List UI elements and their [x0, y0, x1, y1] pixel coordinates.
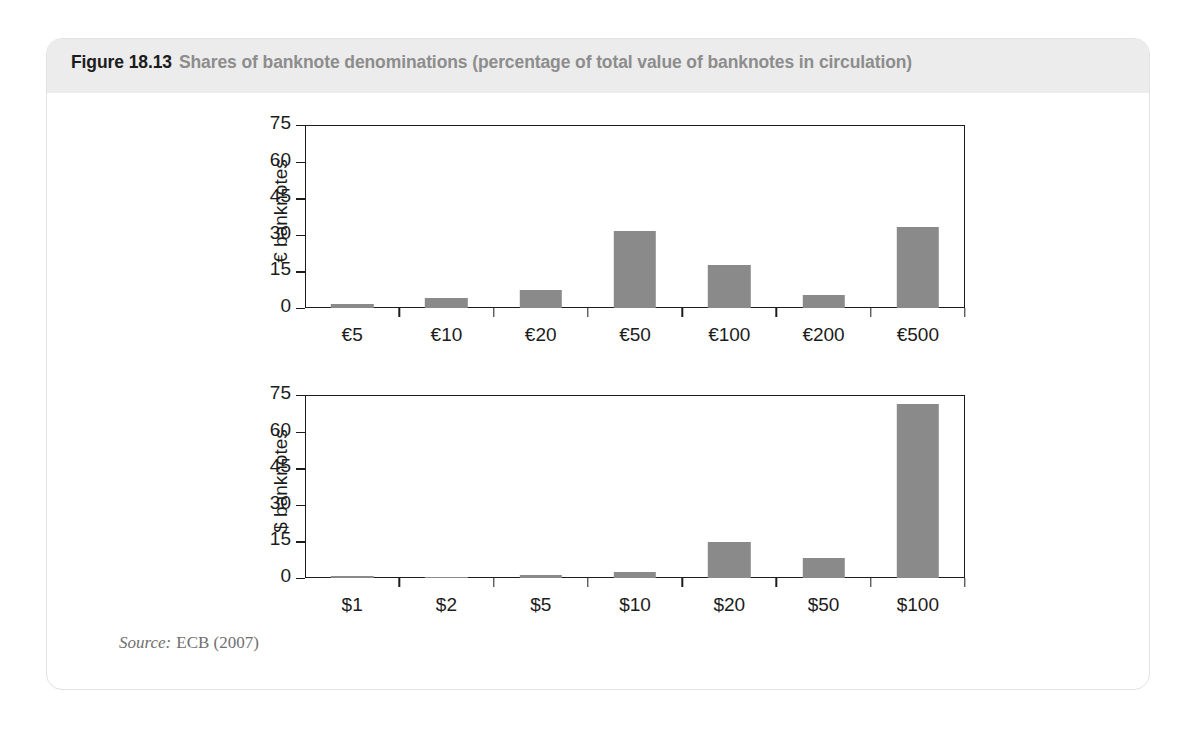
y-tick-mark — [296, 395, 305, 396]
x-tick-label: $10 — [619, 594, 651, 616]
x-tick-mark — [399, 308, 400, 317]
x-tick-mark — [870, 308, 871, 317]
bar — [331, 304, 373, 308]
x-tick-mark — [964, 578, 965, 587]
bar — [802, 558, 844, 578]
y-tick: 15 — [243, 271, 305, 272]
bar — [519, 290, 561, 308]
x-tick-mark — [681, 308, 682, 317]
x-tick-mark — [776, 578, 777, 587]
y-tick-label: 0 — [280, 565, 291, 587]
x-tick-mark — [587, 308, 588, 317]
figure-title: Shares of banknote denominations (percen… — [179, 52, 912, 72]
bar — [708, 265, 750, 308]
y-tick-mark — [296, 162, 305, 163]
y-tick-mark — [296, 468, 305, 469]
x-tick-label: €100 — [708, 324, 750, 346]
x-tick-label: €10 — [431, 324, 463, 346]
x-tick-label: $2 — [436, 594, 457, 616]
chart-dollar-banknotes: $ banknotes 01530456075 $1$2$5$10$20$50$… — [47, 381, 1149, 643]
bar — [519, 575, 561, 578]
bar — [708, 542, 750, 578]
figure-caption-band: Figure 18.13Shares of banknote denominat… — [47, 39, 1149, 93]
charts-area: € banknotes 01530456075 €5€10€20€50€100€… — [47, 93, 1149, 689]
x-tick-label: $20 — [713, 594, 745, 616]
source-line: Source:ECB (2007) — [119, 633, 259, 653]
y-tick-label: 45 — [270, 185, 291, 207]
y-tick-label: 75 — [270, 382, 291, 404]
x-tick-label: €5 — [342, 324, 363, 346]
y-tick: 60 — [243, 162, 305, 163]
x-tick-mark — [493, 578, 494, 587]
x-tick-mark — [870, 578, 871, 587]
x-tick-mark — [587, 578, 588, 587]
x-tick-label: $100 — [897, 594, 939, 616]
y-tick-mark — [296, 271, 305, 272]
bar — [425, 577, 467, 578]
bar — [425, 298, 467, 308]
x-tick-label: €500 — [897, 324, 939, 346]
x-tick-label: $50 — [808, 594, 840, 616]
y-tick-mark — [296, 578, 305, 579]
source-value: ECB (2007) — [176, 633, 259, 652]
y-tick: 0 — [243, 308, 305, 309]
bar — [802, 295, 844, 308]
y-tick: 60 — [243, 432, 305, 433]
plot-area-dollar: 01530456075 $1$2$5$10$20$50$100 — [305, 395, 965, 578]
x-tick-label: €50 — [619, 324, 651, 346]
y-tick: 30 — [243, 235, 305, 236]
x-tick-mark — [776, 308, 777, 317]
y-tick-mark — [296, 432, 305, 433]
bars-dollar — [305, 395, 965, 578]
y-tick-label: 0 — [280, 295, 291, 317]
y-tick: 75 — [243, 125, 305, 126]
bar — [897, 227, 939, 308]
bar — [614, 231, 656, 308]
x-tick-mark — [964, 308, 965, 317]
figure-number: Figure 18.13 — [71, 52, 172, 72]
y-tick-mark — [296, 198, 305, 199]
x-tick-mark — [681, 578, 682, 587]
x-tick-label: $5 — [530, 594, 551, 616]
x-tick-label: $1 — [342, 594, 363, 616]
y-tick: 75 — [243, 395, 305, 396]
y-tick-label: 15 — [270, 528, 291, 550]
y-tick: 45 — [243, 198, 305, 199]
chart-euro-banknotes: € banknotes 01530456075 €5€10€20€50€100€… — [47, 111, 1149, 373]
y-tick-mark — [296, 541, 305, 542]
y-tick: 15 — [243, 541, 305, 542]
bars-euro — [305, 125, 965, 308]
source-label: Source: — [119, 633, 171, 652]
y-tick-label: 60 — [270, 419, 291, 441]
y-tick: 30 — [243, 505, 305, 506]
y-tick: 45 — [243, 468, 305, 469]
y-tick-label: 60 — [270, 149, 291, 171]
y-tick-label: 75 — [270, 112, 291, 134]
y-tick-mark — [296, 235, 305, 236]
bar — [614, 572, 656, 578]
y-tick-mark — [296, 505, 305, 506]
x-tick-mark — [399, 578, 400, 587]
bar — [897, 404, 939, 578]
x-tick-label: €20 — [525, 324, 557, 346]
y-tick-label: 15 — [270, 258, 291, 280]
y-tick-label: 30 — [270, 222, 291, 244]
x-tick-mark — [493, 308, 494, 317]
y-tick-mark — [296, 125, 305, 126]
bar — [331, 576, 373, 578]
figure-caption: Figure 18.13Shares of banknote denominat… — [71, 52, 912, 73]
y-tick: 0 — [243, 578, 305, 579]
y-tick-label: 45 — [270, 455, 291, 477]
y-tick-label: 30 — [270, 492, 291, 514]
x-tick-label: €200 — [802, 324, 844, 346]
y-tick-mark — [296, 308, 305, 309]
figure-card: Figure 18.13Shares of banknote denominat… — [46, 38, 1150, 690]
plot-area-euro: 01530456075 €5€10€20€50€100€200€500 — [305, 125, 965, 308]
